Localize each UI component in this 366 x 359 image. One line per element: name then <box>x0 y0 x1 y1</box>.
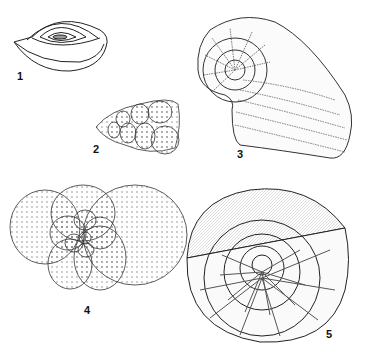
figure-3-drawing <box>198 18 352 159</box>
figure-2-drawing <box>96 100 179 154</box>
figure-label-3: 3 <box>237 148 243 160</box>
plate-illustration <box>0 0 366 359</box>
figure-label-5: 5 <box>326 328 332 340</box>
figure-1-drawing <box>14 21 107 71</box>
figure-4-drawing <box>10 185 187 290</box>
figure-label-4: 4 <box>84 304 90 316</box>
figure-label-2: 2 <box>93 143 99 155</box>
foraminifera-plate: 1 2 3 4 5 <box>0 0 366 359</box>
figure-label-1: 1 <box>17 70 23 82</box>
figure-5-drawing <box>187 189 349 342</box>
